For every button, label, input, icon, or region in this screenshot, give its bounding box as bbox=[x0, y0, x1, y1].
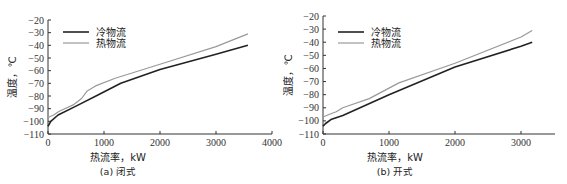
y-tick-label: −110 bbox=[299, 129, 319, 140]
chart-b-svg: −20−30−40−50−60−70−80−90−100−11001000200… bbox=[280, 0, 567, 184]
y-tick-label: −50 bbox=[303, 50, 319, 61]
cold-stream-line bbox=[323, 42, 532, 126]
y-tick-label: −100 bbox=[298, 115, 319, 126]
y-tick-label: −30 bbox=[28, 27, 44, 38]
y-tick-label: −40 bbox=[28, 40, 44, 51]
y-tick-label: −40 bbox=[303, 37, 319, 48]
x-tick-label: 2000 bbox=[445, 137, 465, 148]
x-tick-label: 4000 bbox=[262, 137, 282, 148]
y-tick-label: −90 bbox=[303, 102, 319, 113]
y-tick-label: −60 bbox=[28, 65, 44, 76]
x-tick-label: 1000 bbox=[94, 137, 114, 148]
x-axis-title: 热流率，kW bbox=[90, 151, 146, 163]
chart-panel-closed: −20−30−40−50−60−70−80−90−100−11001000200… bbox=[0, 0, 290, 184]
y-tick-label: −50 bbox=[28, 53, 44, 64]
chart-caption: (a) 闭式 bbox=[100, 166, 136, 177]
x-tick-label: 0 bbox=[46, 137, 51, 148]
legend-label-cold: 冷物流 bbox=[96, 26, 126, 38]
chart-a-svg: −20−30−40−50−60−70−80−90−100−11001000200… bbox=[0, 0, 290, 184]
y-tick-label: −70 bbox=[28, 78, 44, 89]
y-tick-label: −20 bbox=[303, 11, 319, 22]
x-tick-label: 1000 bbox=[379, 137, 399, 148]
y-axis-title: 温度，℃ bbox=[282, 54, 294, 95]
x-tick-label: 3000 bbox=[206, 137, 226, 148]
y-tick-label: −110 bbox=[24, 129, 44, 140]
legend-label-hot: 热物流 bbox=[371, 37, 401, 49]
y-tick-label: −90 bbox=[28, 103, 44, 114]
legend-label-cold: 冷物流 bbox=[371, 26, 401, 38]
legend-label-hot: 热物流 bbox=[96, 37, 126, 49]
y-tick-label: −30 bbox=[303, 24, 319, 35]
chart-caption: (b) 开式 bbox=[377, 166, 413, 177]
y-tick-label: −80 bbox=[28, 91, 44, 102]
x-tick-label: 0 bbox=[321, 137, 326, 148]
y-tick-label: −70 bbox=[303, 76, 319, 87]
chart-panel-open: −20−30−40−50−60−70−80−90−100−11001000200… bbox=[280, 0, 567, 184]
y-tick-label: −20 bbox=[28, 15, 44, 26]
x-tick-label: 3000 bbox=[511, 137, 531, 148]
x-tick-label: 2000 bbox=[150, 137, 170, 148]
cold-stream-line bbox=[48, 45, 248, 126]
y-axis-title: 温度，℃ bbox=[6, 56, 18, 97]
y-tick-label: −80 bbox=[303, 89, 319, 100]
y-tick-label: −60 bbox=[303, 63, 319, 74]
x-axis-title: 热流率，kW bbox=[367, 151, 423, 163]
y-tick-label: −100 bbox=[23, 116, 44, 127]
